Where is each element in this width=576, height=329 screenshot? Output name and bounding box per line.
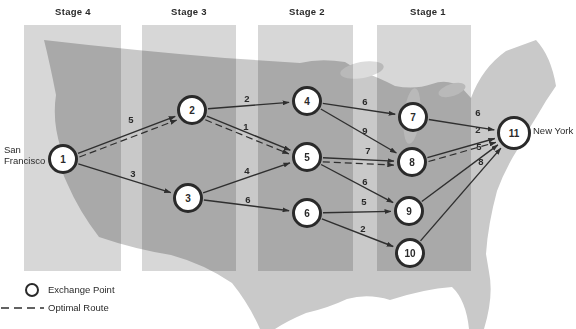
origin-city-label: San Francisco [4, 144, 50, 167]
exchange-point-icon [25, 283, 39, 297]
map-and-network-layer [0, 0, 576, 329]
edge-weight-3-6: 6 [245, 195, 250, 205]
edge-weight-2-5: 1 [243, 122, 248, 132]
node-4: 4 [292, 86, 322, 116]
edge-weight-1-2: 5 [128, 115, 133, 125]
stage-2-label: Stage 2 [289, 6, 325, 17]
node-1: 1 [48, 144, 78, 174]
stage-1-label: Stage 1 [410, 6, 446, 17]
edge-weight-6-9: 5 [361, 197, 366, 207]
edge-weight-5-9: 6 [362, 177, 367, 187]
node-6: 6 [292, 198, 322, 228]
stage-4-label: Stage 4 [55, 6, 91, 17]
node-11: 11 [497, 116, 531, 150]
node-2: 2 [177, 95, 207, 125]
node-3: 3 [173, 183, 203, 213]
edge-weight-4-7: 6 [362, 97, 367, 107]
edge-weight-10-11: 8 [478, 157, 483, 167]
edge-weight-8-11: 2 [475, 125, 480, 135]
stage-3-label: Stage 3 [171, 6, 207, 17]
edge-weight-5-8: 7 [365, 146, 370, 156]
figure-canvas: Stage 4 Stage 3 Stage 2 Stage 1 San Fran… [0, 0, 576, 329]
node-7: 7 [398, 102, 428, 132]
edge-weight-7-11: 6 [475, 108, 480, 118]
destination-city-label: New York [533, 125, 573, 136]
edge-weight-2-4: 2 [244, 94, 249, 104]
node-5: 5 [292, 142, 322, 172]
node-8: 8 [397, 147, 427, 177]
edge-weight-6-10: 2 [360, 224, 365, 234]
stage-3-band [142, 25, 236, 271]
stage-1-band [377, 25, 471, 271]
legend-optimal-route-label: Optimal Route [48, 302, 109, 313]
edge-weight-3-5: 4 [244, 166, 249, 176]
edge-weight-9-11: 5 [476, 142, 481, 152]
legend-exchange-point-label: Exchange Point [48, 284, 115, 295]
node-9: 9 [394, 196, 424, 226]
edge-weight-1-3: 3 [130, 169, 135, 179]
node-10: 10 [395, 238, 425, 268]
edge-weight-4-8: 9 [362, 126, 367, 136]
